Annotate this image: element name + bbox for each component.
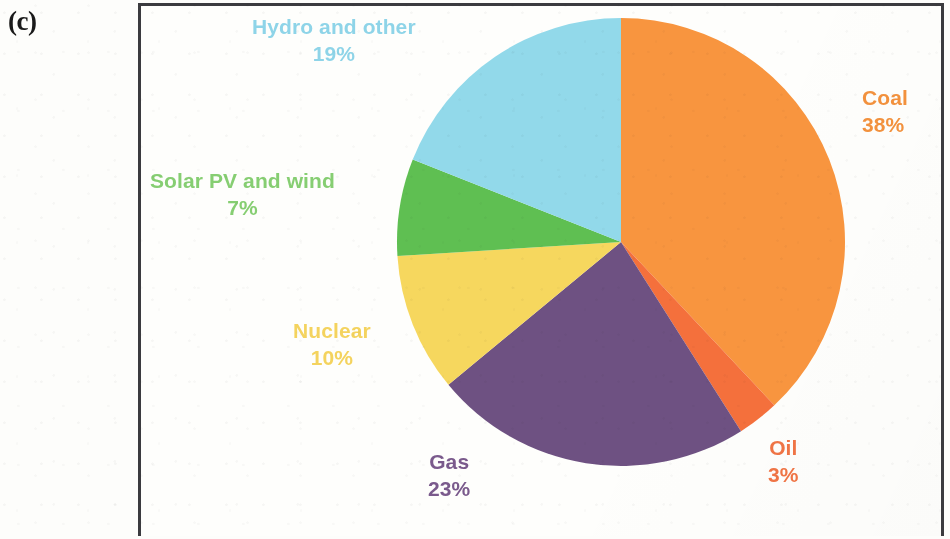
pie-label-nuclear: Nuclear 10% [293, 318, 371, 372]
pie-slice-group [397, 18, 845, 466]
pie-label-coal-name: Coal [862, 85, 908, 112]
pie-label-hydro-and-other-value: 19% [252, 41, 416, 68]
pie-label-hydro-and-other-name: Hydro and other [252, 14, 416, 41]
pie-label-gas-value: 23% [428, 476, 470, 503]
pie-label-solar-pv-and-wind: Solar PV and wind 7% [150, 168, 335, 222]
pie-label-hydro-and-other: Hydro and other 19% [252, 14, 416, 68]
figure-panel: (c) Hydro and other 19% Coal 38% Solar P… [0, 0, 950, 539]
pie-label-oil-name: Oil [768, 435, 799, 462]
pie-chart [0, 0, 950, 539]
pie-label-solar-pv-and-wind-name: Solar PV and wind [150, 168, 335, 195]
pie-label-coal: Coal 38% [862, 85, 908, 139]
pie-label-solar-pv-and-wind-value: 7% [150, 195, 335, 222]
pie-label-nuclear-name: Nuclear [293, 318, 371, 345]
pie-label-oil-value: 3% [768, 462, 799, 489]
pie-label-gas-name: Gas [428, 449, 470, 476]
pie-label-gas: Gas 23% [428, 449, 470, 503]
pie-label-oil: Oil 3% [768, 435, 799, 489]
pie-label-nuclear-value: 10% [293, 345, 371, 372]
pie-label-coal-value: 38% [862, 112, 908, 139]
